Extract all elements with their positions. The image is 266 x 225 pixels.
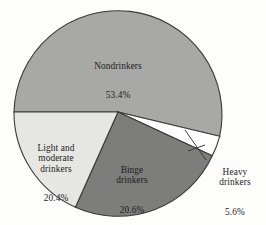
pie-label-heavy-drinkers-text: Heavy drinkers [205, 167, 265, 189]
pie-label-binge-drinkers-value: 20.6% [96, 205, 168, 216]
pie-label-binge-drinkers-text: Binge drinkers [96, 165, 168, 187]
pie-label-light-moderate-drinkers-text: Light and moderate drinkers [15, 143, 97, 175]
pie-label-light-moderate-drinkers: Light and moderate drinkers 20.4% [15, 124, 97, 223]
pie-label-nondrinkers-value: 53.4% [68, 90, 168, 101]
pie-label-light-moderate-drinkers-value: 20.4% [15, 193, 97, 204]
pie-label-nondrinkers: Nondrinkers 53.4% [68, 42, 168, 119]
pie-label-nondrinkers-text: Nondrinkers [68, 61, 168, 72]
pie-label-heavy-drinkers-value: 5.6% [205, 207, 265, 218]
pie-label-heavy-drinkers: Heavy drinkers 5.6% [205, 148, 265, 225]
pie-label-binge-drinkers: Binge drinkers 20.6% [96, 146, 168, 225]
pie-chart-figure: Nondrinkers 53.4% Light and moderate dri… [0, 0, 266, 225]
